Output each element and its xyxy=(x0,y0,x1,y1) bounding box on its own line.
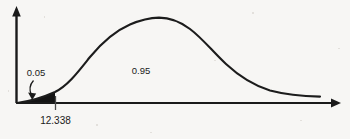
critical-value-label: 12.338 xyxy=(40,115,71,126)
x-axis-arrowhead xyxy=(331,99,341,108)
x-axis xyxy=(17,99,342,108)
chart-svg: 12.338 0.05 0.95 xyxy=(0,0,350,139)
alpha-annotation-arrow xyxy=(28,81,36,101)
distribution-curve xyxy=(17,18,320,103)
confidence-label: 0.95 xyxy=(132,65,151,76)
distribution-chart: 12.338 0.05 0.95 xyxy=(0,0,350,139)
y-axis xyxy=(12,6,21,103)
alpha-label: 0.05 xyxy=(27,67,46,78)
y-axis-arrowhead xyxy=(12,6,21,17)
